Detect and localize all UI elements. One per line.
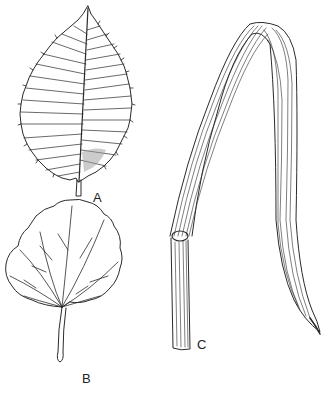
- leaf-b: B: [6, 199, 122, 386]
- leaf-a-blade-outline: [20, 6, 132, 182]
- leaf-b-petiole: [57, 307, 66, 362]
- label-a: A: [93, 190, 102, 205]
- leaf-a-serration: [18, 21, 135, 177]
- leaf-a: A: [18, 6, 135, 205]
- leaf-c-sheath-veins: [175, 241, 188, 347]
- botanical-illustration: A B: [0, 0, 330, 397]
- leaf-a-petiole: [76, 180, 81, 196]
- leaf-c-parallel-veins: [174, 26, 310, 318]
- leaf-a-stipple: [82, 148, 106, 172]
- leaf-b-palmate-veins: [10, 206, 118, 307]
- label-b: B: [82, 371, 91, 386]
- leaf-c: C: [170, 22, 320, 352]
- leaf-c-ligule: [172, 231, 188, 241]
- label-c: C: [197, 337, 206, 352]
